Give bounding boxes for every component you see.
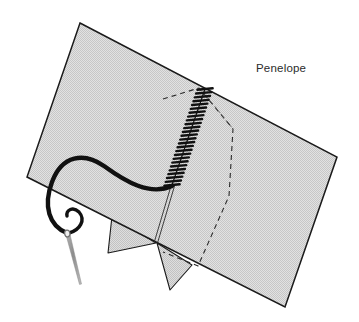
needle-body [66, 232, 82, 284]
thread-tail [67, 209, 82, 233]
stitch-mark [166, 180, 181, 181]
stitch-mark [196, 92, 211, 93]
stitch-mark [182, 134, 197, 135]
stitch-mark [174, 157, 189, 158]
illustration-canvas: Penelope [0, 0, 359, 322]
stitch-mark [183, 131, 198, 132]
stitch-mark [168, 173, 183, 174]
stitch-mark [180, 138, 195, 139]
stitch-mark [175, 154, 190, 155]
stitch-mark [197, 88, 212, 89]
stitch-mark [191, 108, 206, 109]
stitch-mark [185, 123, 200, 124]
stitch-mark [188, 115, 203, 116]
stitch-mark [172, 161, 187, 162]
stitch-mark [189, 111, 204, 112]
stitch-mark [176, 150, 191, 151]
stitch-mark [184, 127, 199, 128]
stitch-mark [193, 100, 208, 101]
stitch-mark [195, 96, 210, 97]
sewing-illustration: Penelope [0, 0, 359, 322]
stitch-mark [187, 119, 202, 120]
stitch-mark [192, 104, 207, 105]
sewing-needle [64, 230, 81, 285]
stitch-mark [170, 169, 185, 170]
needle-eye [64, 230, 71, 238]
figure-caption: Penelope [256, 62, 306, 74]
stitch-mark [179, 142, 194, 143]
stitch-mark [167, 177, 182, 178]
stitch-mark [178, 146, 193, 147]
stitch-mark [171, 165, 186, 166]
